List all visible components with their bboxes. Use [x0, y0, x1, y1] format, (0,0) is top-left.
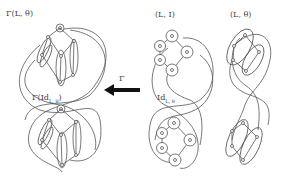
node — [173, 122, 176, 125]
upper-ladder — [221, 25, 268, 79]
node — [174, 159, 177, 162]
arrow-shaft — [112, 88, 140, 92]
node — [72, 74, 75, 77]
node — [231, 145, 234, 148]
label-arrow-gamma: Γ — [119, 74, 125, 83]
label-L-I: (L, I) — [155, 10, 175, 19]
outer-loop — [232, 38, 259, 130]
node — [159, 45, 162, 48]
cluster-ellipse — [221, 116, 252, 159]
outer-loop — [232, 34, 271, 140]
node — [256, 136, 259, 139]
node — [245, 70, 248, 73]
lower-ladder — [221, 116, 266, 167]
gamma-arrow — [104, 84, 140, 96]
node — [186, 51, 189, 54]
upper-hexagon — [155, 30, 194, 76]
outer-loop — [230, 60, 269, 125]
cluster-ellipse — [38, 44, 54, 69]
node — [258, 51, 261, 54]
node — [61, 164, 64, 167]
node — [242, 159, 245, 162]
node — [161, 132, 164, 135]
cluster-ellipse — [73, 120, 81, 156]
label-id-sub: L, θ — [165, 98, 175, 104]
cluster-ellipse — [221, 25, 258, 70]
node — [233, 45, 236, 48]
label-id: IdL, θ — [157, 93, 175, 104]
node — [73, 40, 76, 43]
label-gamma-L-theta: Γ(L, θ) — [6, 9, 33, 18]
node — [60, 55, 63, 58]
node — [161, 147, 164, 150]
node — [189, 139, 192, 142]
graph-L-theta — [221, 25, 270, 168]
node — [59, 81, 62, 84]
node — [75, 154, 78, 157]
node — [47, 36, 50, 39]
diagram-canvas — [0, 0, 282, 183]
label-gamma-id-close: ) — [58, 93, 61, 102]
label-gamma-id-main: Γ(Id — [32, 93, 49, 102]
label-L-theta: (L, θ) — [230, 10, 251, 19]
node — [41, 54, 44, 57]
arrow-head — [104, 84, 114, 96]
node — [48, 119, 51, 122]
node — [60, 134, 63, 137]
node — [232, 59, 235, 62]
node — [171, 35, 174, 38]
label-gamma-id: Γ(IdL, θ) — [32, 93, 62, 104]
upper-lattice — [34, 24, 78, 86]
node — [159, 59, 162, 62]
node — [41, 139, 44, 142]
node — [171, 69, 174, 72]
node — [231, 130, 234, 133]
node — [244, 34, 247, 37]
node — [242, 122, 245, 125]
node — [75, 121, 78, 124]
lower-lattice — [35, 105, 81, 168]
